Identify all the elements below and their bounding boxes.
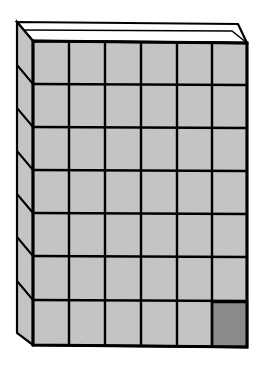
grid-row-line (33, 127, 247, 128)
grid-cell-highlighted[interactable] (212, 302, 247, 347)
grid-row-line (33, 213, 247, 214)
grid-row-line (33, 84, 247, 85)
grid-box-figure (0, 0, 268, 368)
grid-row-line (33, 300, 247, 301)
diagram-canvas (0, 0, 268, 368)
grid-row-line (33, 170, 247, 171)
grid-row-line (33, 256, 247, 257)
